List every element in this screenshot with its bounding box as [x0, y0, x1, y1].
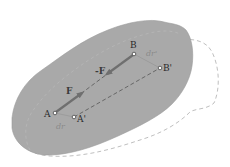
- label-B: B: [130, 40, 137, 50]
- point-A-prime-marker: [72, 115, 76, 119]
- point-A-marker: [53, 111, 57, 115]
- original-body-region: [12, 20, 193, 155]
- label-F: F: [66, 86, 73, 96]
- label-B-prime: B': [163, 63, 172, 73]
- rigid-body-diagram: A A' B B' F -F dr dr': [0, 0, 230, 167]
- point-B-prime-marker: [158, 66, 162, 70]
- label-dr-prime: dr': [146, 49, 157, 58]
- label-minus-F: -F: [95, 66, 106, 76]
- label-A-prime: A': [76, 114, 86, 124]
- point-B-marker: [132, 52, 136, 56]
- label-dr: dr: [56, 122, 66, 131]
- label-A: A: [43, 109, 51, 119]
